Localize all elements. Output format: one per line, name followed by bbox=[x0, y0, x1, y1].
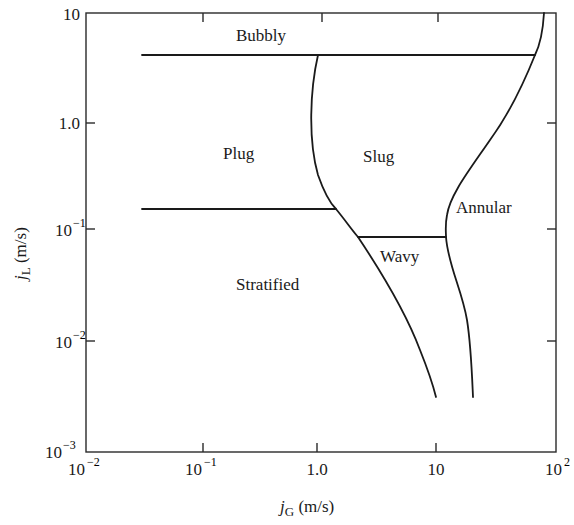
region-plug: Plug bbox=[223, 144, 255, 163]
y-tick-0.1-exp: −1 bbox=[73, 216, 86, 230]
region-slug: Slug bbox=[363, 147, 395, 166]
y-tick-0.01: 10 bbox=[55, 333, 72, 352]
y-tick-10: 10 bbox=[63, 5, 80, 24]
region-annular: Annular bbox=[456, 198, 512, 217]
region-wavy: Wavy bbox=[380, 247, 420, 266]
y-tick-0.01-exp: −2 bbox=[73, 328, 86, 342]
region-labels: Bubbly Plug Slug Annular Wavy Stratified bbox=[223, 26, 512, 294]
x-tick-labels: 10 −2 10 −1 1.0 10 10 2 bbox=[68, 455, 570, 479]
region-stratified: Stratified bbox=[236, 275, 300, 294]
x-tick-0.01-exp: −2 bbox=[87, 455, 100, 469]
y-tick-0.001: 10 bbox=[45, 443, 62, 462]
x-tick-10: 10 bbox=[428, 460, 445, 479]
svg-text:jL (m/s): jL (m/s) bbox=[11, 227, 33, 282]
x-tick-0.1: 10 bbox=[185, 460, 202, 479]
y-tick-labels: 10 1.0 10 −1 10 −2 10 −3 bbox=[45, 5, 86, 462]
x-tick-0.01: 10 bbox=[68, 460, 85, 479]
plot-frame bbox=[86, 13, 556, 452]
x-axis-ticks bbox=[203, 13, 438, 452]
x-axis-title: jG (m/s) bbox=[278, 497, 334, 519]
region-bubbly: Bubbly bbox=[236, 26, 287, 45]
y-tick-0.001-exp: −3 bbox=[63, 438, 76, 452]
x-tick-0.1-exp: −1 bbox=[204, 455, 217, 469]
x-tick-100: 10 bbox=[545, 460, 562, 479]
svg-text:jG (m/s): jG (m/s) bbox=[278, 497, 334, 519]
y-axis-title: jL (m/s) bbox=[11, 227, 33, 282]
boundary-slug-left bbox=[311, 55, 436, 397]
y-tick-0.1: 10 bbox=[55, 221, 72, 240]
x-tick-1: 1.0 bbox=[306, 460, 327, 479]
flow-regime-map: 10 1.0 10 −1 10 −2 10 −3 10 −2 10 −1 1.0… bbox=[0, 0, 574, 525]
y-axis-ticks bbox=[86, 123, 556, 341]
x-tick-100-exp: 2 bbox=[564, 455, 570, 469]
y-tick-1: 1.0 bbox=[59, 114, 80, 133]
